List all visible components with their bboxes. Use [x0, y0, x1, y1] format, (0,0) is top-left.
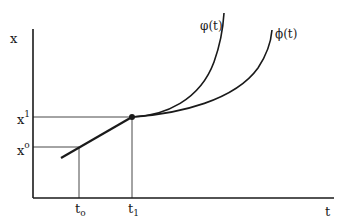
x-tick-t1: t1 [128, 201, 139, 218]
x-axis-label: t [325, 204, 331, 219]
curve-phi-label: ϕ(t) [275, 27, 297, 41]
y-tick-x1: x1 [17, 109, 30, 127]
diagram: x t x1 xo to t1 φ(t) ϕ(t) [0, 0, 350, 224]
y-axis-label: x [10, 31, 18, 46]
tangent-point-dot [129, 114, 135, 120]
y-tick-x1-sup: 1 [24, 109, 30, 119]
y-tick-x0: xo [17, 140, 30, 158]
x-tick-t0: to [75, 201, 86, 218]
linear-segment [61, 117, 132, 158]
curve-phi [132, 30, 272, 117]
x-tick-t0-sub: o [80, 208, 85, 218]
y-tick-x0-sup: o [24, 140, 29, 150]
curve-varphi-label: φ(t) [200, 19, 223, 33]
x-tick-t1-sub: 1 [133, 208, 139, 218]
